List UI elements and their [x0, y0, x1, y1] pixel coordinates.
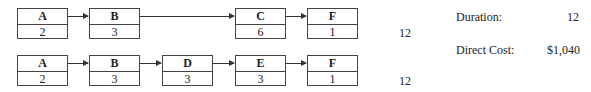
activity-name: C [236, 9, 285, 25]
activity-duration: 1 [308, 72, 357, 86]
activity-duration: 2 [18, 72, 67, 86]
arrow-c-f [286, 16, 306, 17]
activity-name: B [90, 56, 139, 72]
arrow-b-c [140, 16, 234, 17]
duration-label: Duration: [456, 10, 502, 25]
arrow-b-d [140, 63, 161, 64]
duration-value: 12 [567, 10, 579, 25]
activity-duration: 6 [236, 25, 285, 39]
path1-activity-c: C 6 [235, 8, 286, 39]
path2-activity-e: E 3 [235, 55, 286, 86]
activity-name: B [90, 9, 139, 25]
activity-name: F [308, 56, 357, 72]
path2-total: 12 [399, 74, 411, 89]
path2-activity-d: D 3 [162, 55, 213, 86]
arrow-e-f [286, 63, 306, 64]
path2-activity-a: A 2 [17, 55, 68, 86]
activity-duration: 3 [163, 72, 212, 86]
activity-duration: 2 [18, 25, 67, 39]
activity-name: A [18, 56, 67, 72]
activity-name: D [163, 56, 212, 72]
arrow-a-b [68, 63, 88, 64]
direct-cost-label: Direct Cost: [456, 43, 514, 58]
path1-total: 12 [399, 26, 411, 41]
path2-activity-f: F 1 [307, 55, 358, 86]
activity-duration: 3 [236, 72, 285, 86]
direct-cost-value: $1,040 [547, 43, 580, 58]
arrow-d-e [213, 63, 234, 64]
activity-duration: 1 [308, 25, 357, 39]
arrow-a-b [68, 16, 88, 17]
activity-duration: 3 [90, 72, 139, 86]
activity-name: A [18, 9, 67, 25]
path2-activity-b: B 3 [89, 55, 140, 86]
activity-name: E [236, 56, 285, 72]
path1-activity-a: A 2 [17, 8, 68, 39]
activity-name: F [308, 9, 357, 25]
path1-activity-b: B 3 [89, 8, 140, 39]
activity-duration: 3 [90, 25, 139, 39]
path1-activity-f: F 1 [307, 8, 358, 39]
